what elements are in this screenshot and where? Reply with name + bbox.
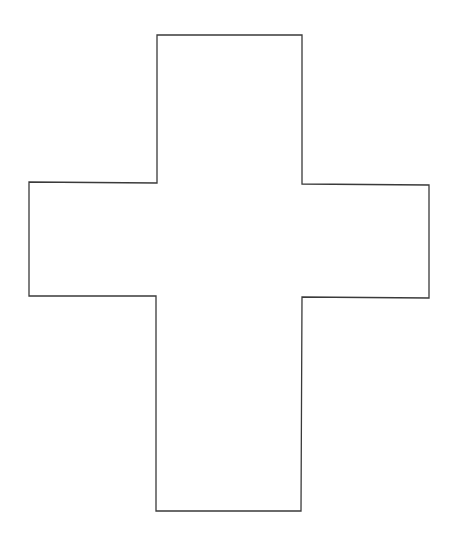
cross-diagram [0,0,452,542]
